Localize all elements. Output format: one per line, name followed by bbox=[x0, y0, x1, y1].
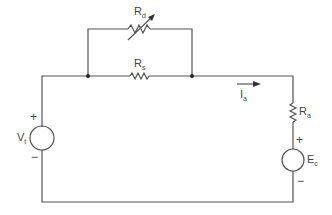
circuit-wires bbox=[0, 0, 332, 215]
top-right-wire bbox=[149, 76, 293, 103]
vt-plus-sign: + bbox=[30, 111, 37, 123]
ec-label: Ec bbox=[307, 154, 318, 167]
rd-label: Rd bbox=[134, 6, 146, 19]
rs-resistor bbox=[130, 73, 149, 79]
junction-right bbox=[190, 74, 194, 78]
bottom-wire bbox=[42, 150, 293, 202]
vt-label: Vt bbox=[17, 132, 26, 145]
vt-minus-sign: − bbox=[31, 151, 38, 163]
rd-right-wire bbox=[150, 29, 192, 76]
rd-left-wire bbox=[88, 29, 128, 76]
top-left-wire bbox=[42, 76, 130, 127]
ia-arrow-head bbox=[253, 81, 261, 87]
ec-minus-sign: − bbox=[297, 175, 304, 187]
ia-label: Ia bbox=[240, 89, 247, 102]
vt-source-circle bbox=[30, 126, 54, 150]
ec-source-circle bbox=[282, 149, 304, 171]
ra-label: Ra bbox=[299, 106, 311, 119]
junction-left bbox=[86, 74, 90, 78]
variable-arrow-line bbox=[128, 17, 152, 40]
rs-label: Rs bbox=[134, 58, 145, 71]
circuit-diagram: Rd Rs Ra Ia Vt Ec + − + − bbox=[0, 0, 332, 215]
ec-plus-sign: + bbox=[296, 134, 303, 146]
ra-resistor bbox=[290, 103, 296, 122]
